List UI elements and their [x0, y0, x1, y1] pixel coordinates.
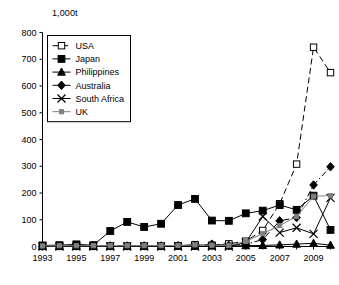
y-tick-label: 700	[21, 54, 36, 64]
series-australia	[39, 163, 335, 251]
data-point-marker	[210, 243, 214, 247]
data-point-marker	[276, 229, 284, 237]
data-point-marker	[293, 206, 300, 213]
data-point-marker	[176, 243, 180, 247]
data-point-marker	[311, 194, 315, 198]
data-point-marker	[209, 217, 216, 224]
data-point-marker	[40, 244, 44, 248]
data-point-marker	[108, 244, 112, 248]
x-tick-label: 1995	[66, 253, 86, 263]
legend-marker-open-square	[58, 43, 64, 49]
data-point-marker	[276, 202, 283, 209]
legend-marker-filled-square	[58, 56, 65, 63]
series-line	[43, 196, 331, 246]
legend-marker-small-square	[59, 110, 63, 114]
legend-label: USA	[76, 41, 95, 51]
data-point-marker	[225, 217, 232, 224]
data-point-marker	[107, 228, 114, 235]
data-point-marker	[158, 220, 165, 227]
data-point-marker	[295, 214, 299, 218]
x-tick-label: 1997	[100, 253, 120, 263]
data-point-marker	[327, 69, 333, 75]
data-point-marker	[293, 161, 299, 167]
data-point-marker	[328, 194, 332, 198]
data-point-marker	[159, 244, 163, 248]
legend-label: UK	[76, 107, 89, 117]
data-point-marker	[142, 244, 146, 248]
data-point-marker	[261, 232, 265, 236]
data-point-marker	[125, 244, 129, 248]
data-point-marker	[278, 224, 282, 228]
legend-label: Philippines	[76, 67, 120, 77]
x-axis-tick-labels: 199319951997199920012003200520072009	[32, 253, 323, 263]
chart-legend: USAJapanPhilippinesAustraliaSouth Africa…	[48, 36, 131, 122]
x-tick-label: 2007	[270, 253, 290, 263]
y-tick-label: 400	[21, 135, 36, 145]
data-point-marker	[244, 239, 248, 243]
legend-label: Japan	[76, 54, 101, 64]
data-point-marker	[227, 243, 231, 247]
data-point-marker	[242, 210, 249, 217]
data-point-marker	[74, 244, 78, 248]
series-line	[43, 167, 331, 246]
data-point-marker	[293, 224, 301, 232]
y-tick-label: 500	[21, 108, 36, 118]
data-point-marker	[327, 227, 334, 234]
data-point-marker	[259, 207, 266, 214]
y-tick-label: 600	[21, 81, 36, 91]
data-point-marker	[310, 44, 316, 50]
data-point-marker	[57, 244, 61, 248]
y-tick-label: 200	[21, 188, 36, 198]
x-tick-label: 2005	[236, 253, 256, 263]
data-point-marker	[193, 243, 197, 247]
data-point-marker	[124, 218, 131, 225]
y-tick-label: 800	[21, 28, 36, 38]
data-point-marker	[310, 239, 318, 246]
legend-label: Australia	[76, 81, 111, 91]
series-line	[43, 198, 331, 247]
x-tick-label: 1993	[32, 253, 52, 263]
data-point-marker	[91, 244, 95, 248]
chart-container: 1,000t 0100200300400500600700800 1993199…	[0, 0, 339, 285]
x-tick-label: 2001	[168, 253, 188, 263]
data-point-marker	[192, 195, 199, 202]
y-tick-label: 300	[21, 161, 36, 171]
series-line	[43, 196, 331, 246]
data-point-marker	[175, 202, 182, 209]
x-tick-label: 1999	[134, 253, 154, 263]
y-tick-label: 100	[21, 215, 36, 225]
y-axis-tick-labels: 0100200300400500600700800	[21, 28, 36, 252]
y-tick-label: 0	[31, 242, 36, 252]
x-tick-label: 2003	[202, 253, 222, 263]
line-chart: 0100200300400500600700800 19931995199719…	[0, 0, 339, 285]
data-point-marker	[310, 230, 318, 238]
x-tick-label: 2009	[304, 253, 324, 263]
data-point-marker	[141, 224, 148, 231]
legend-label: South Africa	[76, 94, 125, 104]
